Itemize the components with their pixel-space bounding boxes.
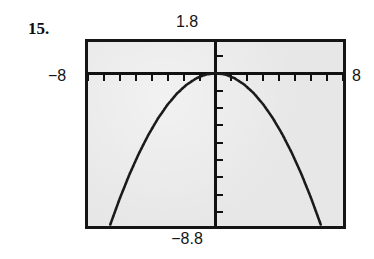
window-label-xmax: 8 <box>352 68 361 84</box>
window-label-ymin: −8.8 <box>0 231 374 247</box>
plot-surface <box>88 42 343 226</box>
parabola-curve <box>88 42 343 226</box>
calculator-screen <box>85 39 346 229</box>
exercise-figure: 15. 1.8 −8 8 −8.8 <box>0 0 374 259</box>
window-label-xmin: −8 <box>48 68 66 84</box>
window-label-ymax: 1.8 <box>0 14 374 30</box>
